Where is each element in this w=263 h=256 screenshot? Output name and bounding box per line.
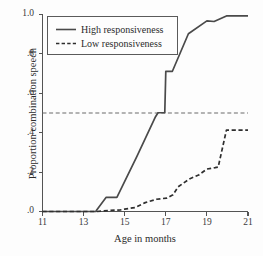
chart-figure: High responsiveness Low responsiveness 1… [0,0,263,256]
y-axis-ticks [39,15,43,212]
x-tick-label-4: 17 [154,218,178,228]
x-tick-label-1: 11 [31,218,55,228]
x-axis-title: Age in months [42,233,248,244]
x-tick-label-6: 21 [236,218,260,228]
x-tick-label-3: 15 [113,218,137,228]
series-line-low-responsiveness [43,130,249,211]
y-axis-title: Proportion combination speech [27,14,38,214]
x-tick-label-2: 13 [72,218,96,228]
x-tick-label-5: 19 [195,218,219,228]
legend-label-low-responsiveness: Low responsiveness [81,39,162,49]
legend-label-high-responsiveness: High responsiveness [81,25,164,35]
